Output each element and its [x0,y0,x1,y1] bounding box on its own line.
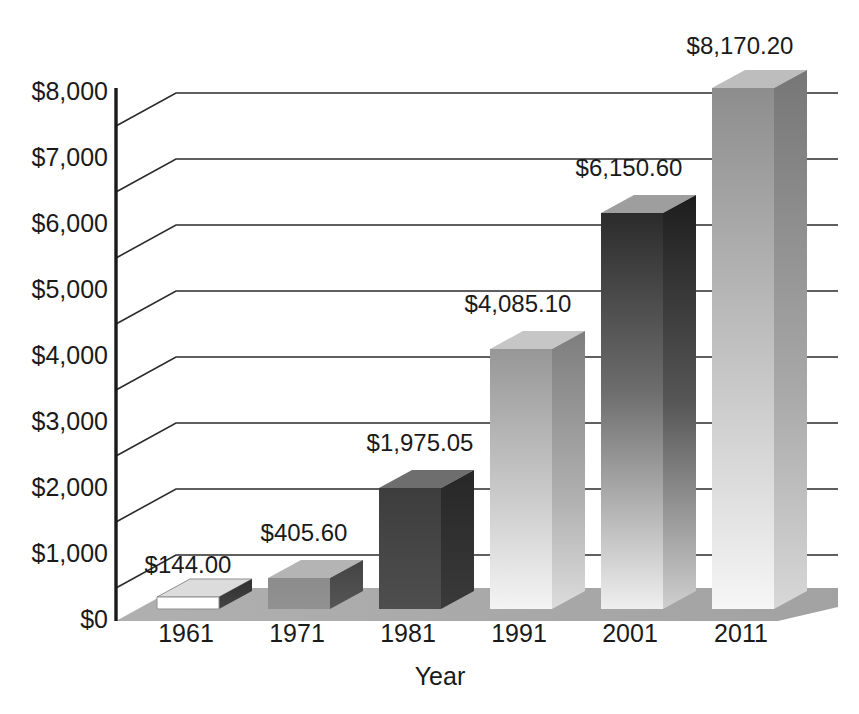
ytick-label-0: $0 [80,605,108,633]
ytick-label-4000: $4,000 [32,341,108,369]
ytick-label-1000: $1,000 [32,539,108,567]
y-tick-labels: $0 $1,000 $2,000 $3,000 $4,000 $5,000 $6… [32,77,108,633]
bar-front-face-2001 [601,213,663,609]
bar-chart-figure: $0 $1,000 $2,000 $3,000 $4,000 $5,000 $6… [0,0,859,714]
value-label-1971: $405.60 [261,519,348,546]
bar-side-face-1981 [441,470,474,609]
xtick-label-2011: 2011 [714,619,768,647]
ytick-label-7000: $7,000 [32,143,108,171]
bar-side-face-1991 [552,331,585,609]
bar-side-face-2001 [663,195,696,609]
chart-canvas: $0 $1,000 $2,000 $3,000 $4,000 $5,000 $6… [0,0,859,714]
bar-2001[interactable]: $6,150.60 [576,154,696,609]
x-axis-title: Year [415,662,466,690]
x-tick-labels: 1961 1971 1981 1991 2001 2011 [158,619,768,647]
value-label-2011: $8,170.20 [687,32,794,59]
value-label-1961: $144.00 [145,551,232,578]
bar-2011[interactable]: $8,170.20 [687,32,807,609]
ytick-label-2000: $2,000 [32,473,108,501]
xtick-label-2001: 2001 [602,619,658,647]
bar-side-face-2011 [774,70,807,609]
bar-front-face-2011 [712,88,774,609]
bar-1991[interactable]: $4,085.10 [465,290,585,609]
value-label-2001: $6,150.60 [576,154,683,181]
ytick-label-5000: $5,000 [32,275,108,303]
value-label-1981: $1,975.05 [367,429,474,456]
xtick-label-1991: 1991 [491,619,547,647]
bar-front-face-1981 [379,488,441,609]
bar-front-face-1971 [268,578,330,609]
bar-1971[interactable]: $405.60 [261,519,363,609]
xtick-label-1971: 1971 [269,619,325,647]
ytick-label-8000: $8,000 [32,77,108,105]
bar-front-face-1961 [157,597,219,609]
bar-front-face-1991 [490,349,552,609]
ytick-label-6000: $6,000 [32,209,108,237]
xtick-label-1961: 1961 [158,619,214,647]
value-label-1991: $4,085.10 [465,290,572,317]
bar-1981[interactable]: $1,975.05 [367,429,474,609]
xtick-label-1981: 1981 [380,619,436,647]
ytick-label-3000: $3,000 [32,407,108,435]
